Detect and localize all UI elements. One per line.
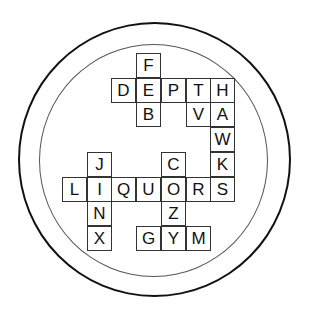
grid-cell-r2-c5[interactable]: V	[186, 102, 211, 127]
grid-cell-r0-c3[interactable]: F	[136, 53, 161, 78]
grid-cell-r5-c1[interactable]: I	[87, 177, 112, 202]
grid-cell-r7-c5[interactable]: M	[186, 226, 211, 251]
grid-cell-r1-c3[interactable]: E	[136, 78, 161, 103]
crossword-puzzle: FDEPTHBVAWJCKLIQUORSNZXGYM	[0, 0, 310, 313]
grid-cell-r4-c4[interactable]: C	[161, 152, 186, 177]
grid-cell-r2-c3[interactable]: B	[136, 102, 161, 127]
grid-cell-r7-c4[interactable]: Y	[161, 226, 186, 251]
grid-cell-r7-c1[interactable]: X	[87, 226, 112, 251]
grid-cell-r5-c5[interactable]: R	[186, 177, 211, 202]
grid-cell-r1-c6[interactable]: H	[210, 78, 235, 103]
grid-cell-r4-c6[interactable]: K	[210, 152, 235, 177]
grid-cell-r1-c5[interactable]: T	[186, 78, 211, 103]
grid-cell-r6-c4[interactable]: Z	[161, 201, 186, 226]
grid-cell-r2-c6[interactable]: A	[210, 102, 235, 127]
grid-cell-r7-c3[interactable]: G	[136, 226, 161, 251]
grid-cell-r4-c1[interactable]: J	[87, 152, 112, 177]
grid-cell-r5-c6[interactable]: S	[210, 177, 235, 202]
crossword-grid: FDEPTHBVAWJCKLIQUORSNZXGYM	[62, 53, 235, 252]
grid-cell-r6-c1[interactable]: N	[87, 201, 112, 226]
grid-cell-r5-c0[interactable]: L	[62, 177, 87, 202]
grid-cell-r5-c3[interactable]: U	[136, 177, 161, 202]
grid-cell-r1-c2[interactable]: D	[111, 78, 136, 103]
grid-cell-r5-c4[interactable]: O	[161, 177, 186, 202]
grid-cell-r3-c6[interactable]: W	[210, 127, 235, 152]
grid-cell-r5-c2[interactable]: Q	[111, 177, 136, 202]
grid-cell-r1-c4[interactable]: P	[161, 78, 186, 103]
